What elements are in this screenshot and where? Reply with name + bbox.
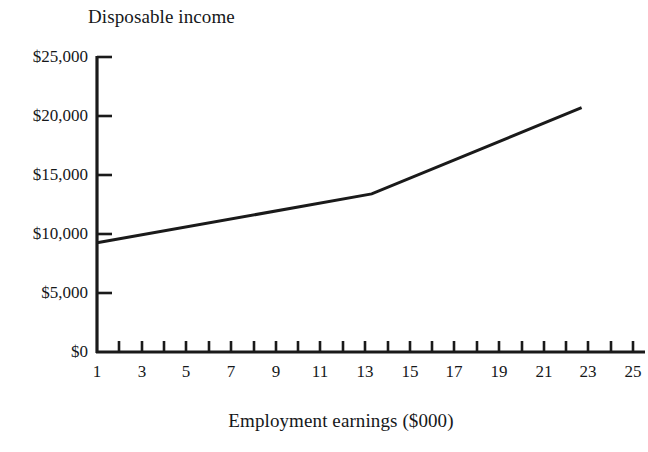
x-axis-title: Employment earnings ($000) xyxy=(0,410,648,432)
chart-figure: Disposable income $25,000 $20,000 $15,00… xyxy=(0,0,648,452)
x-axis-title-text: Employment earnings ($000) xyxy=(228,410,453,432)
data-series-line xyxy=(97,108,582,243)
chart-plot-svg xyxy=(0,0,648,452)
x-axis-ticks xyxy=(119,341,633,352)
x-axis xyxy=(96,341,645,352)
y-axis xyxy=(97,56,112,353)
